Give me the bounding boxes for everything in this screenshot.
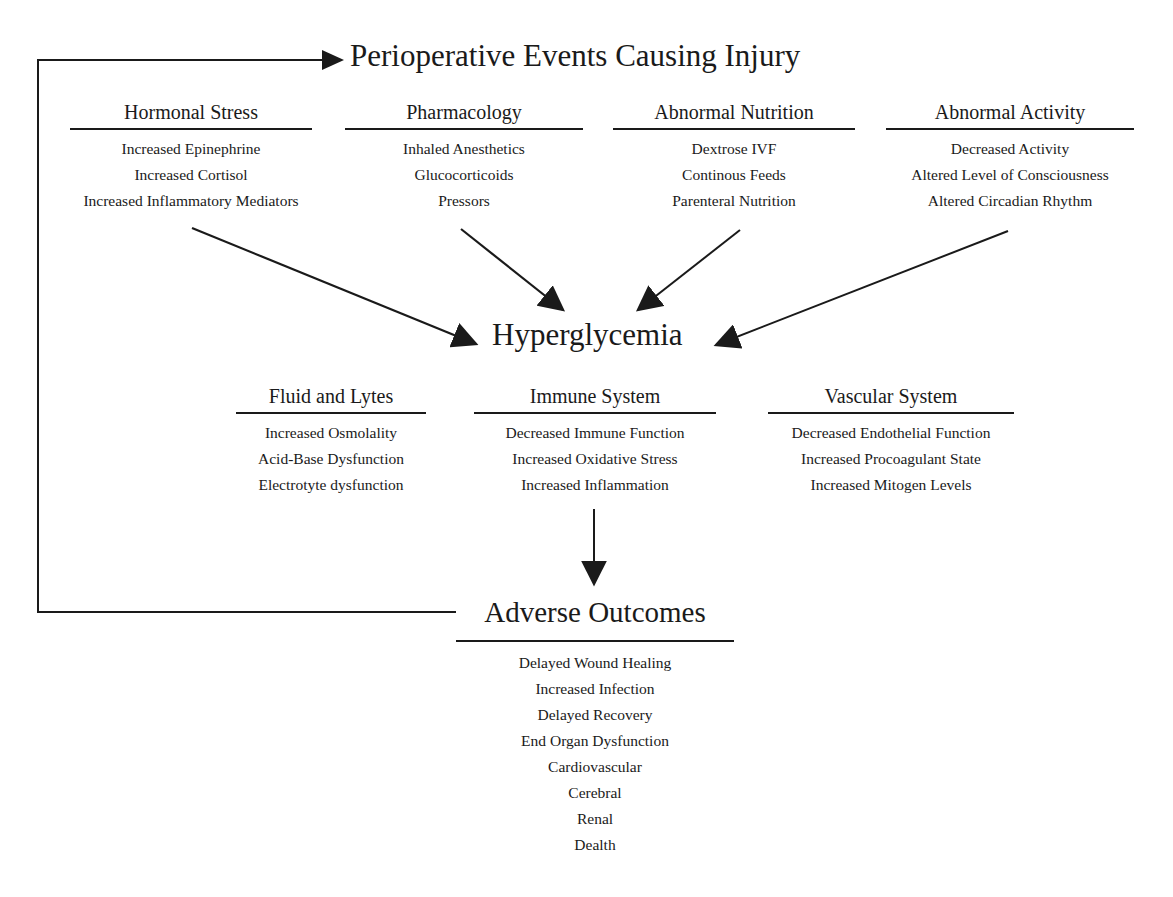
outcome-group-adverse-outcomes: Adverse Outcomes Delayed Wound Healing I… [456,594,734,858]
list-item: Inhaled Anesthetics [345,136,583,162]
effect-group-immune-system: Immune System Decreased Immune Function … [474,384,716,498]
arrow-activity-to-hyperglycemia [716,231,1008,345]
list-item: Increased Mitogen Levels [768,472,1014,498]
list-item: Increased Epinephrine [70,136,312,162]
effect-group-vascular-system: Vascular System Decreased Endothelial Fu… [768,384,1014,498]
cause-group-pharmacology: Pharmacology Inhaled Anesthetics Glucoco… [345,100,583,214]
list-item: Increased Inflammation [474,472,716,498]
arrowhead-icon [322,50,344,70]
effect-group-fluid-and-lytes: Fluid and Lytes Increased Osmolality Aci… [236,384,426,498]
list-item: Decreased Activity [886,136,1134,162]
list-item: End Organ Dysfunction [456,728,734,754]
group-heading: Abnormal Activity [886,100,1134,130]
group-heading: Hormonal Stress [70,100,312,130]
group-heading: Abnormal Nutrition [613,100,855,130]
list-item: Dealth [456,832,734,858]
list-item: Increased Infection [456,676,734,702]
cause-group-abnormal-activity: Abnormal Activity Decreased Activity Alt… [886,100,1134,214]
cause-group-hormonal-stress: Hormonal Stress Increased Epinephrine In… [70,100,312,214]
list-item: Acid-Base Dysfunction [236,446,426,472]
arrow-nutrition-to-hyperglycemia [638,230,740,310]
list-item: Parenteral Nutrition [613,188,855,214]
list-item: Altered Level of Consciousness [886,162,1134,188]
list-item: Delayed Recovery [456,702,734,728]
list-item: Altered Circadian Rhythm [886,188,1134,214]
group-heading: Pharmacology [345,100,583,130]
list-item: Decreased Endothelial Function [768,420,1014,446]
list-item: Cardiovascular [456,754,734,780]
list-item: Increased Inflammatory Mediators [70,188,312,214]
list-item: Cerebral [456,780,734,806]
list-item: Increased Cortisol [70,162,312,188]
group-heading: Fluid and Lytes [236,384,426,414]
list-item: Increased Oxidative Stress [474,446,716,472]
arrow-pharmacology-to-hyperglycemia [461,229,563,310]
center-title: Hyperglycemia [492,317,683,353]
group-heading: Immune System [474,384,716,414]
cause-group-abnormal-nutrition: Abnormal Nutrition Dextrose IVF Continou… [613,100,855,214]
list-item: Dextrose IVF [613,136,855,162]
group-heading: Vascular System [768,384,1014,414]
top-title: Perioperative Events Causing Injury [350,38,800,74]
list-item: Decreased Immune Function [474,420,716,446]
list-item: Increased Procoagulant State [768,446,1014,472]
list-item: Increased Osmolality [236,420,426,446]
list-item: Electrotyte dysfunction [236,472,426,498]
list-item: Pressors [345,188,583,214]
list-item: Delayed Wound Healing [456,650,734,676]
list-item: Glucocorticoids [345,162,583,188]
arrow-hormonal-to-hyperglycemia [192,228,476,344]
group-heading: Adverse Outcomes [456,594,734,642]
list-item: Renal [456,806,734,832]
list-item: Continous Feeds [613,162,855,188]
